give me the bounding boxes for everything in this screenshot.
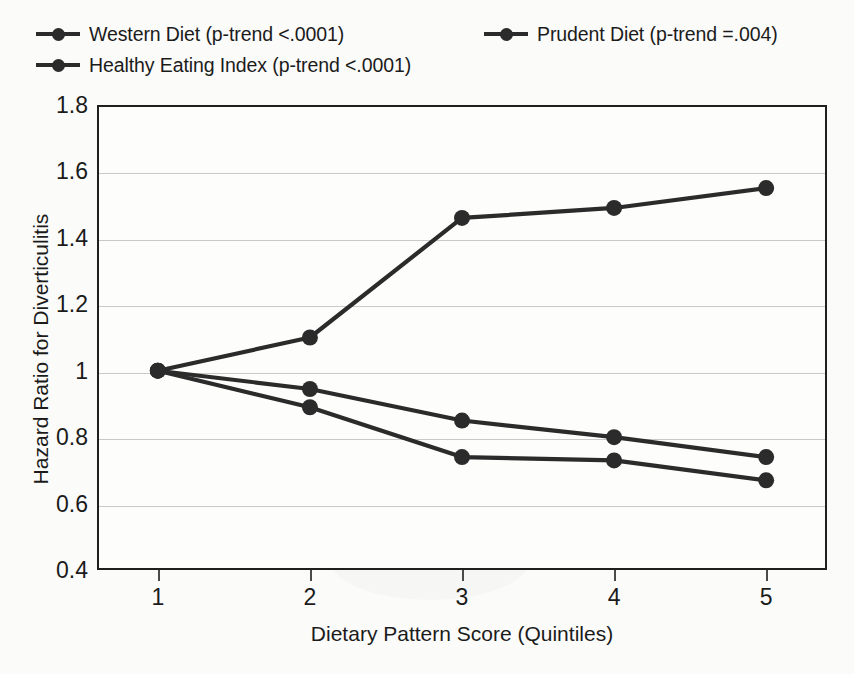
- x-axis-tick-label: 5: [736, 584, 796, 611]
- data-point-marker: [606, 452, 622, 468]
- x-axis-tick-labels: 12345: [97, 584, 827, 616]
- legend-label-prudent-diet: Prudent Diet (p-trend =.004): [537, 24, 778, 44]
- x-axis-tick: [310, 570, 312, 581]
- data-point-marker: [606, 200, 622, 216]
- x-axis-tick-label: 2: [280, 584, 340, 611]
- x-axis-ticks: [97, 570, 827, 582]
- legend-item-western-diet: Western Diet (p-trend <.0001): [36, 24, 344, 44]
- data-point-marker: [606, 429, 622, 445]
- legend-item-healthy-eating-index: Healthy Eating Index (p-trend <.0001): [36, 55, 411, 75]
- data-point-marker: [454, 413, 470, 429]
- data-point-marker: [302, 330, 318, 346]
- data-point-marker: [758, 180, 774, 196]
- chart-legend: Western Diet (p-trend <.0001) Healthy Ea…: [0, 24, 854, 86]
- data-point-marker: [454, 210, 470, 226]
- y-axis-tick-label: 1.8: [10, 92, 88, 119]
- legend-marker-icon: [484, 25, 528, 43]
- x-axis-tick-label: 4: [584, 584, 644, 611]
- legend-label-healthy-eating-index: Healthy Eating Index (p-trend <.0001): [89, 55, 411, 75]
- legend-marker-icon: [36, 25, 80, 43]
- x-axis-tick: [158, 570, 160, 581]
- x-axis-tick: [766, 570, 768, 581]
- legend-label-western-diet: Western Diet (p-trend <.0001): [89, 24, 344, 44]
- chart-figure: Western Diet (p-trend <.0001) Healthy Ea…: [0, 0, 854, 674]
- legend-marker-icon: [36, 56, 80, 74]
- y-axis-title: Hazard Ratio for Diverticulitis: [29, 117, 53, 582]
- legend-item-prudent-diet: Prudent Diet (p-trend =.004): [484, 24, 778, 44]
- data-point-marker: [454, 449, 470, 465]
- data-point-marker: [758, 449, 774, 465]
- x-axis-tick-label: 3: [432, 584, 492, 611]
- x-axis-tick: [462, 570, 464, 581]
- data-point-marker: [302, 399, 318, 415]
- x-axis-tick-label: 1: [128, 584, 188, 611]
- data-point-marker: [150, 363, 166, 379]
- x-axis-tick: [614, 570, 616, 581]
- data-point-marker: [758, 472, 774, 488]
- data-point-marker: [302, 381, 318, 397]
- x-axis-title: Dietary Pattern Score (Quintiles): [97, 622, 827, 646]
- data-series-layer: [97, 105, 827, 570]
